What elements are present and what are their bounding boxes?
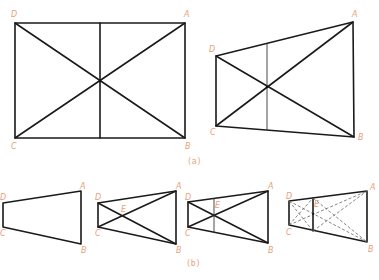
label-b: B bbox=[176, 246, 182, 255]
label-c: C bbox=[95, 229, 101, 238]
trapezoid-outline bbox=[3, 191, 81, 244]
trapezoid-figure: D A C B bbox=[209, 10, 364, 142]
label-c: C bbox=[210, 128, 216, 137]
diagonal-db bbox=[216, 56, 354, 137]
trapezoid-outline bbox=[98, 191, 176, 244]
label-d: D bbox=[0, 193, 6, 202]
perspective-construction-diagram: D A C B D A C B (a) D A C B D A C B E bbox=[0, 0, 379, 280]
label-b: B bbox=[358, 133, 364, 142]
caption-a: (a) bbox=[187, 157, 201, 166]
step-4-figure: D A C B E bbox=[286, 183, 375, 254]
label-c: C bbox=[0, 229, 6, 238]
label-e: E bbox=[215, 201, 221, 210]
label-c: C bbox=[11, 142, 17, 151]
center-point bbox=[266, 86, 269, 89]
trapezoid-outline bbox=[289, 191, 367, 242]
label-d: D bbox=[11, 10, 17, 19]
label-a: A bbox=[183, 10, 189, 19]
center-point bbox=[99, 80, 102, 83]
label-d: D bbox=[286, 192, 292, 201]
step-2-figure: D A C B E bbox=[95, 182, 182, 255]
label-c: C bbox=[185, 229, 191, 238]
caption-b: (b) bbox=[186, 259, 200, 268]
label-e: E bbox=[121, 205, 127, 214]
step-1-figure: D A C B bbox=[0, 182, 87, 255]
center-point bbox=[312, 213, 314, 215]
label-b: B bbox=[268, 246, 274, 255]
label-b: B bbox=[185, 142, 191, 151]
label-e: E bbox=[314, 200, 320, 209]
label-a: A bbox=[351, 10, 357, 19]
label-b: B bbox=[368, 245, 374, 254]
label-c: C bbox=[286, 228, 292, 237]
trapezoid-outline bbox=[188, 191, 268, 243]
label-d: D bbox=[209, 45, 215, 54]
diagonal-ca bbox=[216, 22, 353, 126]
rectangle-figure: D A C B bbox=[11, 10, 191, 151]
label-a: A bbox=[79, 182, 85, 191]
trapezoid-outline bbox=[216, 22, 354, 137]
label-b: B bbox=[81, 246, 87, 255]
label-a: A bbox=[175, 182, 181, 191]
label-a: A bbox=[369, 183, 375, 192]
label-d: D bbox=[95, 193, 101, 202]
label-d: D bbox=[185, 193, 191, 202]
dashed-diagonal bbox=[289, 201, 367, 242]
label-a: A bbox=[267, 182, 273, 191]
step-3-figure: D A C B E bbox=[185, 182, 274, 255]
